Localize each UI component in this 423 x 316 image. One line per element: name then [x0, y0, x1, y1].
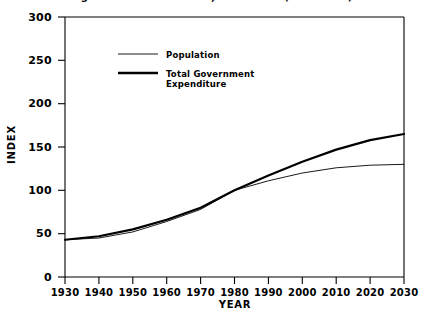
legend-swatches	[118, 54, 158, 73]
y-tick-label-0: 0	[6, 271, 52, 284]
legend-label-population: Population	[166, 50, 220, 60]
y-tick-label-300: 300	[6, 11, 52, 24]
y-axis-label: INDEX	[6, 115, 17, 175]
y-tick-label-100: 100	[6, 184, 52, 197]
x-axis-ticks	[65, 277, 404, 284]
y-tick-label-50: 50	[6, 227, 52, 240]
y-tick-label-200: 200	[6, 97, 52, 110]
series-line-total-government-expenditure	[65, 134, 404, 240]
y-tick-label-250: 250	[6, 54, 52, 67]
y-axis-ticks	[58, 17, 65, 277]
legend-label-total-government-expenditure: Total Government Expenditure	[166, 69, 254, 89]
axis-frame	[65, 17, 404, 277]
x-tick-label-2030: 2030	[382, 287, 423, 298]
x-axis-label: YEAR	[165, 299, 305, 310]
series-line-population	[65, 164, 404, 239]
